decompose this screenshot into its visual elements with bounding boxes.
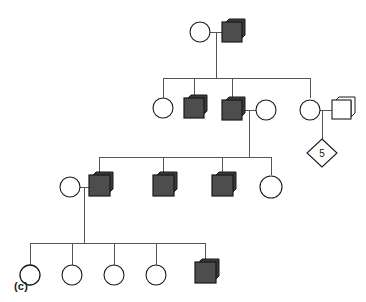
square-face [195,262,216,283]
generation-i [190,19,245,42]
square-face [332,100,351,119]
pedigree-diagram: 5 [0,0,366,302]
individual-circle-unaffected[interactable] [190,22,210,42]
diamond-count-label: 5 [319,148,325,159]
pedigree-lines [30,32,332,265]
individual-square-affected[interactable] [222,97,245,120]
individual-circle-unaffected[interactable] [153,98,173,118]
square-face [89,175,110,196]
individual-square-affected[interactable] [184,95,207,118]
figure-label: (c) [14,281,28,292]
generation-iv [20,259,219,285]
individual-circle-unaffected[interactable] [146,265,166,285]
individual-square-affected[interactable] [153,172,177,196]
generation-ii [153,95,355,120]
individual-square-affected[interactable] [212,172,236,196]
individual-diamond-group[interactable]: 5 [307,139,337,167]
pedigree-figure: 5 [0,0,366,302]
square-face [153,175,174,196]
square-face [184,98,204,118]
individual-square-affected[interactable] [222,19,245,42]
individual-circle-unaffected[interactable] [300,100,320,120]
square-face [212,175,233,196]
individual-circle-unaffected[interactable] [256,100,276,120]
square-face [222,22,242,42]
individual-square-affected[interactable] [89,172,113,196]
individual-square-unaffected[interactable] [332,97,355,119]
individual-circle-unaffected[interactable] [104,265,124,285]
individual-circle-unaffected[interactable] [60,177,80,197]
individual-circle-unaffected[interactable] [62,265,82,285]
individual-circle-unaffected[interactable] [260,176,282,198]
individual-square-affected[interactable] [195,259,219,283]
generation-iii [60,172,282,198]
square-face [222,100,242,120]
